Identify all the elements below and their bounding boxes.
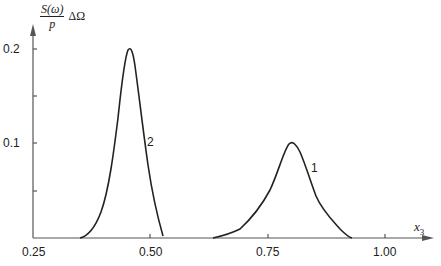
x-tick-label: 1.00 (373, 245, 397, 259)
x-tick-label: 0.50 (139, 245, 163, 259)
curve-1 (213, 143, 352, 238)
x-axis-arrow-icon (422, 235, 434, 241)
curve-1-label: 1 (311, 161, 318, 175)
curve-2-label: 2 (147, 135, 154, 149)
y-tick-label: 0.1 (3, 136, 20, 150)
x-tick-label: 0.75 (256, 245, 280, 259)
y-tick-label: 0.2 (3, 42, 20, 56)
chart-canvas: 0.2 0.1 0.25 0.50 0.75 1.00 2 1 (0, 0, 441, 266)
x-tick-label: 0.25 (22, 245, 46, 259)
y-axis-arrow-icon (30, 24, 36, 36)
